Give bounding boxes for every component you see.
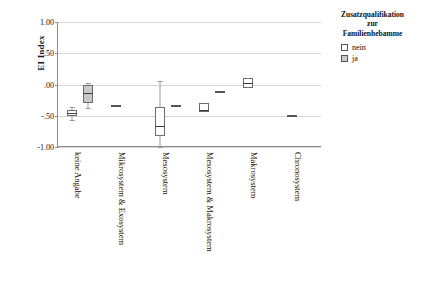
- box-plot: [155, 22, 165, 147]
- box-plot: [67, 22, 77, 147]
- median-line: [199, 110, 209, 111]
- whisker-cap-upper: [86, 83, 91, 84]
- legend-title-line: Familienhebamme: [325, 29, 420, 38]
- whisker-cap-lower: [158, 147, 163, 148]
- box-single-value: [215, 91, 225, 93]
- y-tick-label: 1.00: [40, 18, 54, 27]
- legend-title-line: Zusatzqualifikation: [325, 10, 420, 19]
- whisker-cap-upper: [70, 107, 75, 108]
- y-tick-mark: [55, 22, 58, 23]
- box-iqr: [155, 107, 165, 136]
- x-axis-label: Mikrosystem & Exosystem: [117, 152, 127, 245]
- legend-title-line: zur: [325, 19, 420, 28]
- legend-entry[interactable]: nein: [341, 43, 420, 52]
- y-tick-mark: [55, 147, 58, 148]
- box-plot: [171, 22, 181, 147]
- box-single-value: [171, 105, 181, 107]
- y-tick-label: .00: [44, 80, 54, 89]
- legend-entry[interactable]: ja: [341, 54, 420, 63]
- grid-line: [58, 147, 321, 148]
- grid-line: [58, 22, 321, 23]
- box-plot: [287, 22, 297, 147]
- y-tick-label: .50: [44, 49, 54, 58]
- y-tick-label: -.50: [41, 111, 54, 120]
- legend-title: ZusatzqualifikationzurFamilienhebamme: [325, 10, 420, 38]
- boxplot-chart: EI Index 1.00.50.00-.50-1.00 keine Angab…: [0, 0, 422, 301]
- whisker-lower: [160, 136, 161, 147]
- x-axis-label: keine Angabe: [73, 152, 83, 199]
- box-plot: [199, 22, 209, 147]
- y-tick-mark: [55, 53, 58, 54]
- grid-line: [58, 116, 321, 117]
- box-single-value: [287, 115, 297, 117]
- whisker-upper: [160, 81, 161, 107]
- legend-label: ja: [352, 54, 358, 63]
- box-single-value: [111, 105, 121, 107]
- legend: ZusatzqualifikationzurFamilienhebamme ne…: [325, 10, 420, 65]
- y-tick-label: -1.00: [37, 143, 54, 152]
- x-axis-label: Mesosystem: [161, 152, 171, 195]
- plot-area: 1.00.50.00-.50-1.00: [57, 22, 321, 147]
- box-plot: [215, 22, 225, 147]
- whisker-cap-lower: [86, 108, 91, 109]
- y-tick-mark: [55, 116, 58, 117]
- whisker-cap-lower: [70, 120, 75, 121]
- whisker-cap-upper: [158, 81, 163, 82]
- legend-label: nein: [352, 43, 366, 52]
- median-line: [67, 113, 77, 114]
- grid-line: [58, 53, 321, 54]
- median-line: [83, 93, 93, 94]
- median-line: [155, 126, 165, 127]
- legend-swatch: [341, 44, 348, 51]
- grid-line: [58, 85, 321, 86]
- box-plot: [83, 22, 93, 147]
- x-axis-label: Chronosystem: [293, 152, 303, 201]
- y-tick-mark: [55, 85, 58, 86]
- box-plot: [243, 22, 253, 147]
- legend-swatch: [341, 55, 348, 62]
- median-line: [243, 83, 253, 84]
- box-plot: [111, 22, 121, 147]
- legend-items: neinja: [341, 43, 420, 63]
- x-axis-label: Mesosystem & Makrosystem: [205, 152, 215, 252]
- x-axis-label: Makrosystem: [249, 152, 259, 198]
